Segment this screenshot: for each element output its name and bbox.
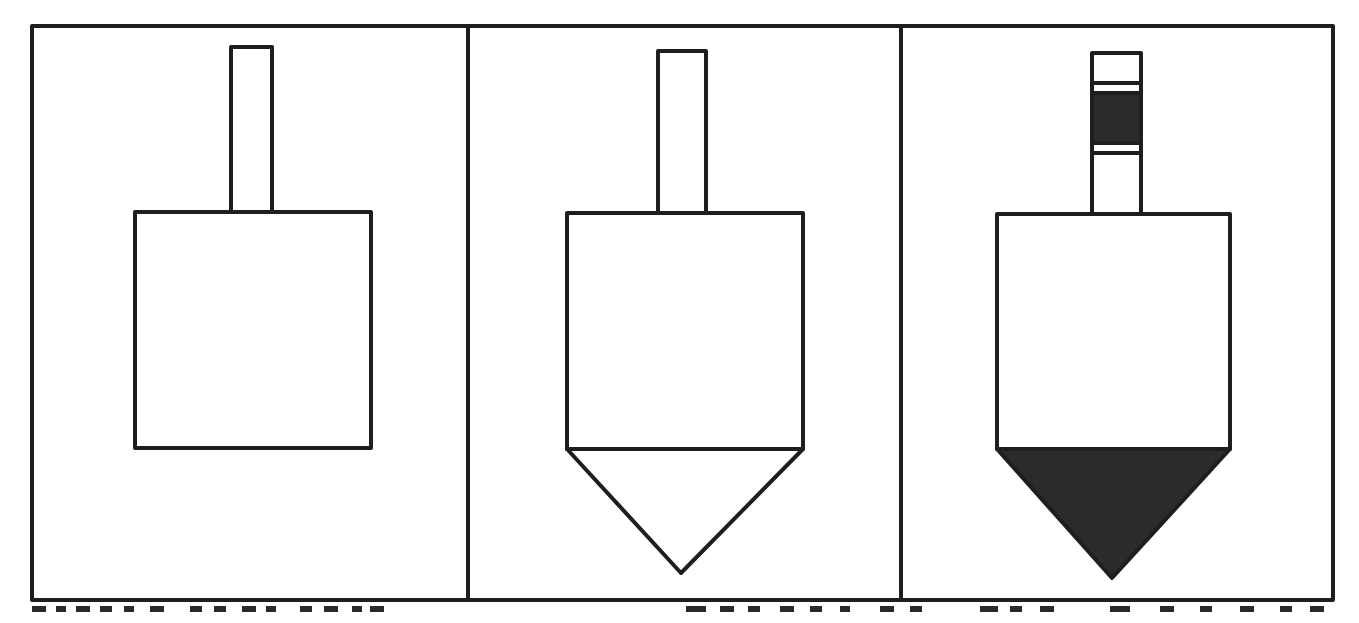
panel-3-body xyxy=(997,214,1230,449)
panel-2-rod xyxy=(658,51,706,213)
panel-2-body xyxy=(567,213,803,449)
panel-2-shape xyxy=(567,51,803,573)
panel-3-shape xyxy=(997,53,1230,578)
panel-3-rod-dark-band xyxy=(1092,93,1141,143)
panel-1-body xyxy=(135,212,371,448)
panel-1-shape xyxy=(135,47,371,448)
panel-1-rod xyxy=(231,47,272,212)
panel-2-tip-outline xyxy=(567,449,803,573)
caption-clipped xyxy=(0,606,1359,623)
diagram-canvas xyxy=(0,0,1359,623)
panel-3-tip-filled xyxy=(997,449,1230,578)
